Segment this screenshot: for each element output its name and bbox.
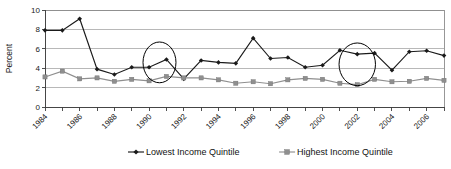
x-tick-label: 2004: [377, 112, 396, 131]
data-point-marker: [182, 76, 186, 80]
legend-label: Lowest Income Quintile: [146, 147, 240, 157]
legend-item-1: Lowest Income Quintile: [128, 147, 240, 157]
y-axis-title: Percent: [4, 43, 14, 73]
x-tick-label: 1994: [204, 112, 223, 131]
data-point-marker: [390, 80, 394, 84]
y-tick-label: 8: [36, 25, 41, 34]
x-tick-label: 1996: [239, 112, 258, 131]
data-point-marker: [442, 53, 447, 58]
x-tick-label: 2006: [412, 112, 431, 131]
data-point-marker: [234, 81, 238, 85]
x-tick-label: 1998: [273, 112, 292, 131]
y-tick-label: 2: [36, 84, 41, 93]
legend-swatch-marker: [133, 149, 138, 154]
data-point-marker: [442, 78, 446, 82]
data-point-marker: [112, 72, 117, 77]
data-point-marker: [95, 76, 99, 80]
x-tick-label: 1988: [100, 112, 119, 131]
series-line-2: [45, 71, 444, 85]
x-tick-label: 1986: [65, 112, 84, 131]
x-tick-label: 1992: [169, 112, 188, 131]
data-point-marker: [199, 76, 203, 80]
data-point-marker: [78, 77, 82, 81]
data-point-marker: [129, 65, 134, 70]
gridlines: [45, 10, 444, 107]
data-point-marker: [303, 65, 308, 70]
legend-swatch-marker: [285, 150, 290, 155]
data-point-marker: [60, 69, 64, 73]
data-point-marker: [355, 52, 360, 57]
x-tick-label: 2002: [343, 112, 362, 131]
y-tick-label: 6: [36, 45, 41, 54]
x-tick-label: 2000: [308, 112, 327, 131]
data-point-marker: [425, 76, 429, 80]
plot-area-frame: [45, 10, 444, 107]
data-point-marker: [130, 77, 134, 81]
data-point-marker: [303, 76, 307, 80]
data-point-marker: [251, 80, 255, 84]
x-tick-label: 1990: [135, 112, 154, 131]
data-point-marker: [407, 79, 411, 83]
y-tick-label: 0: [36, 103, 41, 112]
chart-container: 0246810Percent19841986198819901992199419…: [0, 0, 451, 169]
data-point-marker: [338, 81, 342, 85]
data-point-marker: [43, 28, 48, 33]
legend-label: Highest Income Quintile: [297, 147, 393, 157]
y-tick-label: 10: [31, 6, 40, 15]
line-chart: 0246810Percent19841986198819901992199419…: [0, 0, 451, 169]
data-point-marker: [112, 79, 116, 83]
data-point-marker: [286, 55, 291, 60]
data-point-marker: [164, 74, 168, 78]
annotation-ellipse-2: [339, 43, 375, 86]
data-point-marker: [147, 65, 152, 70]
data-point-marker: [268, 82, 272, 86]
data-point-marker: [216, 60, 221, 65]
data-point-marker: [43, 75, 47, 79]
x-tick-label: 1984: [30, 112, 49, 131]
data-point-marker: [216, 78, 220, 82]
data-point-marker: [320, 77, 324, 81]
data-point-marker: [373, 77, 377, 81]
legend-item-2: Highest Income Quintile: [279, 147, 393, 157]
data-point-marker: [95, 67, 100, 72]
y-tick-label: 4: [36, 64, 41, 73]
data-point-marker: [286, 78, 290, 82]
